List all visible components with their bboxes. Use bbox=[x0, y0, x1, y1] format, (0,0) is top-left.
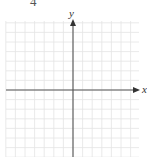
x-axis-arrow-icon bbox=[133, 87, 140, 93]
y-axis-label: y bbox=[68, 7, 74, 19]
grid-lines bbox=[6, 21, 139, 157]
y-axis bbox=[70, 19, 76, 157]
x-axis-label: x bbox=[141, 83, 147, 95]
coordinate-grid: x y bbox=[0, 0, 147, 157]
